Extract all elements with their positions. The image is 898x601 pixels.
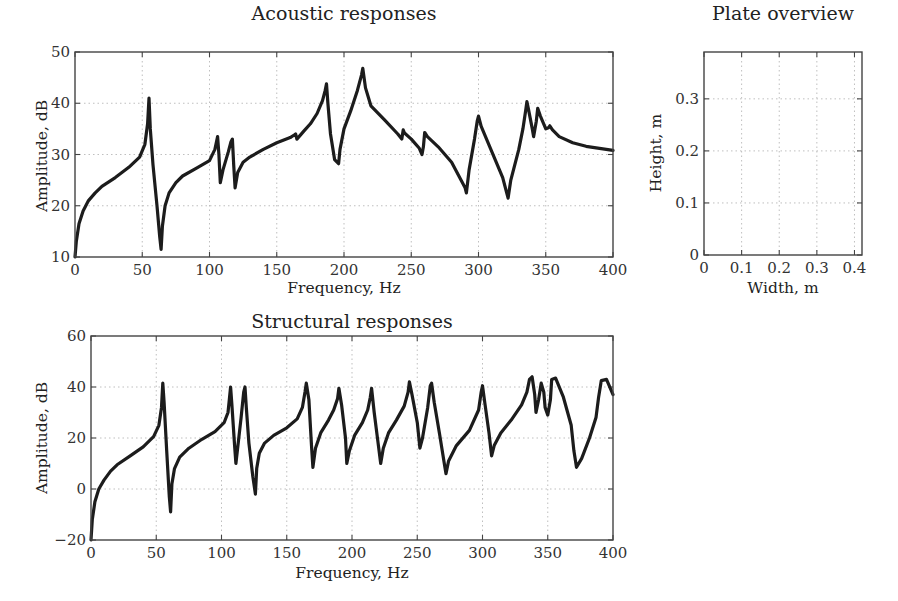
plate-chart-title: Plate overview [712, 2, 855, 24]
x-tick-label: 0.2 [767, 259, 791, 277]
x-tick-label: 250 [403, 544, 432, 562]
acoustic-gridlines [75, 52, 613, 257]
y-tick-label: 0 [689, 246, 699, 264]
y-tick-label: 10 [51, 248, 70, 266]
y-tick-label: 40 [51, 94, 70, 112]
y-tick-label: 50 [51, 43, 70, 61]
y-tick-label: 0.3 [675, 90, 699, 108]
acoustic-y-axis-label: Amplitude, dB [33, 100, 51, 213]
x-tick-label: 0 [699, 259, 709, 277]
y-tick-label: 60 [67, 327, 86, 345]
y-tick-label: 20 [67, 429, 86, 447]
acoustic-chart-title: Acoustic responses [251, 2, 437, 24]
x-tick-label: 350 [533, 544, 562, 562]
x-tick-label: 400 [599, 544, 628, 562]
acoustic-responses-chart: Acoustic responses 050100150200250300350… [33, 2, 627, 297]
figure: Acoustic responses 050100150200250300350… [0, 0, 898, 601]
x-tick-label: 300 [464, 261, 493, 279]
y-tick-label: 40 [67, 378, 86, 396]
x-tick-label: 400 [599, 261, 628, 279]
structural-responses-chart: Structural responses 0501001502002503003… [33, 310, 627, 582]
x-tick-label: 200 [330, 261, 359, 279]
structural-chart-title: Structural responses [251, 310, 453, 332]
acoustic-axes-frame [75, 52, 613, 257]
structural-tick-labels: 050100150200250300350400−200204060 [54, 327, 627, 562]
structural-x-axis-label: Frequency, Hz [295, 564, 408, 582]
x-tick-label: 350 [531, 261, 560, 279]
x-tick-label: 0.3 [805, 259, 829, 277]
plate-gridlines [704, 52, 862, 255]
x-tick-label: 0.4 [843, 259, 867, 277]
x-tick-label: 100 [207, 544, 236, 562]
structural-y-axis-label: Amplitude, dB [33, 382, 51, 495]
x-tick-label: 150 [272, 544, 301, 562]
plate-y-axis-label: Height, m [647, 114, 665, 193]
x-tick-label: 200 [338, 544, 367, 562]
x-tick-label: 0 [86, 544, 96, 562]
plate-overview-chart: Plate overview 00.10.20.30.400.10.20.3 W… [647, 2, 866, 297]
y-tick-label: −20 [54, 531, 86, 549]
x-tick-label: 300 [468, 544, 497, 562]
x-tick-label: 100 [195, 261, 224, 279]
y-tick-label: 20 [51, 197, 70, 215]
x-tick-label: 150 [262, 261, 291, 279]
x-tick-label: 50 [147, 544, 166, 562]
y-tick-label: 30 [51, 146, 70, 164]
y-tick-label: 0.1 [675, 194, 699, 212]
y-tick-label: 0 [76, 480, 86, 498]
x-tick-label: 0.1 [730, 259, 754, 277]
y-tick-label: 0.2 [675, 142, 699, 160]
plate-x-axis-label: Width, m [747, 279, 819, 297]
plate-axes-frame [704, 52, 862, 255]
x-tick-label: 0 [70, 261, 80, 279]
x-tick-label: 50 [133, 261, 152, 279]
x-tick-label: 250 [397, 261, 426, 279]
acoustic-x-axis-label: Frequency, Hz [287, 279, 400, 297]
